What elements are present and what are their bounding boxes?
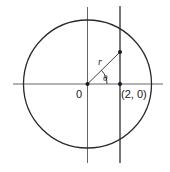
angle-label: θ xyxy=(103,73,108,83)
radius-label: r xyxy=(98,56,102,67)
point-2-0 xyxy=(118,82,122,86)
intersection-point xyxy=(118,50,122,54)
point-label: (2, 0) xyxy=(121,88,147,100)
origin-point xyxy=(86,82,90,86)
origin-label: 0 xyxy=(76,88,82,100)
polar-diagram: 0 (2, 0) r θ xyxy=(0,0,170,172)
diagram-canvas: 0 (2, 0) r θ xyxy=(0,0,170,172)
